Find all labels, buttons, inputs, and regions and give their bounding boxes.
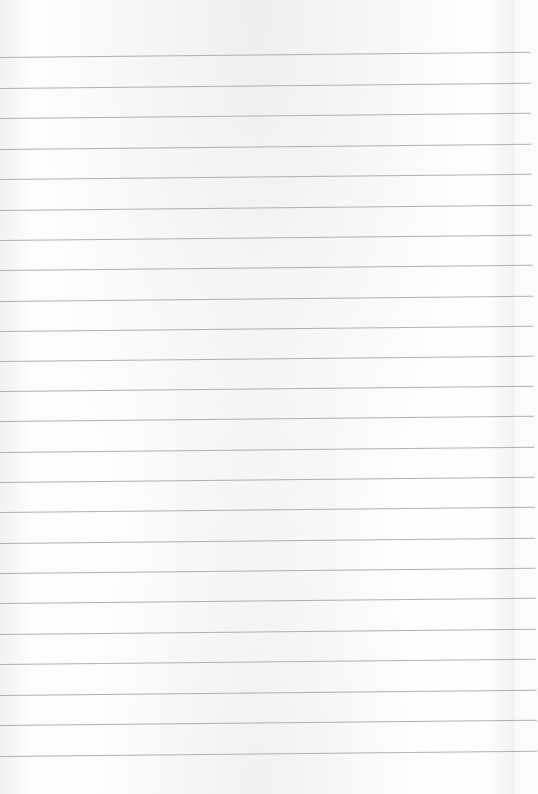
ruled-line xyxy=(0,507,535,513)
ruled-line xyxy=(0,477,535,483)
ruled-line xyxy=(0,751,537,757)
ruled-line xyxy=(0,174,532,180)
ruled-line xyxy=(0,296,533,302)
ruled-line xyxy=(0,720,537,726)
ruled-line xyxy=(0,205,532,211)
ruled-line xyxy=(0,690,537,696)
ruled-line xyxy=(0,144,531,150)
ruled-line xyxy=(0,113,531,119)
ruled-line xyxy=(0,52,531,58)
ruled-line xyxy=(0,326,533,332)
ruled-line xyxy=(0,386,534,392)
ruled-line xyxy=(0,235,532,241)
ruled-line xyxy=(0,447,534,453)
ruled-line xyxy=(0,538,535,544)
ruled-line xyxy=(0,598,536,604)
ruled-line xyxy=(0,356,533,362)
ruled-line xyxy=(0,83,531,89)
ruled-lines xyxy=(0,0,538,794)
ruled-line xyxy=(0,416,534,422)
ruled-line xyxy=(0,265,533,271)
ruled-line xyxy=(0,629,536,635)
ruled-line xyxy=(0,659,536,665)
ruled-line xyxy=(0,568,535,574)
